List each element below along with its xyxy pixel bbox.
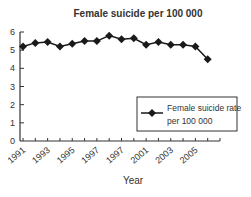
y-tick-label: 0 — [10, 136, 15, 146]
y-tick-label: 6 — [10, 27, 15, 37]
x-tick-label: 1997 — [79, 145, 101, 166]
line-chart: Female suicide per 100 000 0123456199119… — [0, 0, 251, 197]
data-point-marker — [81, 37, 89, 45]
data-point-marker — [93, 37, 101, 45]
y-tick-label: 5 — [10, 45, 15, 55]
x-tick-label: 2005 — [178, 145, 200, 166]
x-axis-label: Year — [123, 175, 144, 186]
data-point-marker — [68, 40, 76, 48]
y-tick-label: 3 — [10, 82, 15, 92]
y-tick-label: 1 — [10, 118, 15, 128]
x-tick-label: 2001 — [129, 145, 151, 166]
legend-label-line1: Female suicide rate — [167, 103, 241, 113]
legend: Female suicide rate per 100 000 — [137, 97, 241, 131]
data-point-marker — [179, 41, 187, 49]
x-tick-label: 1995 — [55, 145, 77, 166]
legend-label-line2: per 100 000 — [167, 116, 213, 126]
chart-title: Female suicide per 100 000 — [74, 8, 203, 19]
x-tick-label: 2003 — [153, 145, 175, 166]
data-point-marker — [154, 38, 162, 46]
y-tick-label: 2 — [10, 100, 15, 110]
data-point-marker — [130, 34, 138, 42]
series-group — [19, 32, 212, 64]
y-tick-label: 4 — [10, 63, 15, 73]
data-point-marker — [31, 39, 39, 47]
x-tick-label: 1993 — [30, 145, 52, 166]
data-point-marker — [118, 35, 126, 43]
axes: 012345619911993199519971997200120032005 — [6, 27, 220, 165]
x-tick-label: 1991 — [6, 145, 28, 166]
data-point-marker — [105, 32, 113, 40]
series-line — [23, 36, 208, 60]
data-point-marker — [56, 43, 64, 51]
data-point-marker — [167, 41, 175, 49]
data-point-marker — [142, 41, 150, 49]
data-point-marker — [44, 38, 52, 46]
x-tick-label: 1997 — [104, 145, 126, 166]
